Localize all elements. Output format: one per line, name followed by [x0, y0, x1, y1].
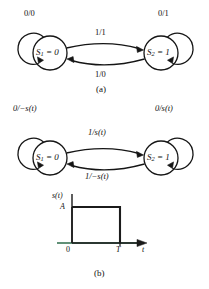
state-label-s2-value-middle: = 1: [155, 152, 170, 162]
caption-a: (a): [96, 84, 106, 94]
transition-arc-s2-to-s1: [72, 59, 145, 65]
self-loop-label-left-middle: 0/−s(t): [13, 104, 37, 113]
duration-label: T: [116, 246, 120, 254]
state-label-s2-top: S2 = 1: [147, 48, 170, 58]
state-label-s1-value-middle: = 0: [44, 152, 59, 162]
transition-label-top: 1/1: [95, 28, 106, 37]
origin-label: 0: [66, 246, 70, 254]
state-label-s1-value: = 0: [44, 47, 59, 57]
transition-label-bottom-middle: 1/−s(t): [85, 172, 109, 181]
transition-label-top-middle: 1/s(t): [88, 128, 106, 137]
state-label-s1-top: S1 = 0: [36, 48, 59, 58]
state-label-s2-value: = 1: [155, 47, 170, 57]
amplitude-label: A: [60, 203, 65, 211]
self-loop-label-right-middle: 0/s(t): [155, 104, 173, 113]
y-axis-label: s(t): [52, 192, 63, 200]
self-loop-label-left-top: 0/0: [24, 9, 35, 18]
x-axis-label: t: [142, 246, 144, 254]
figure-root: 0/0 0/1 1/1 1/0 S1 = 0 S2 = 1 (a) 0/−s(t…: [0, 0, 209, 289]
transition-arrowhead-to-s2-middle: [137, 151, 144, 157]
self-loop-label-right-top: 0/1: [158, 9, 169, 18]
state-label-s1-middle: S1 = 0: [36, 153, 59, 163]
transition-arc-s2-to-s1-middle: [72, 164, 145, 170]
state-label-s2-middle: S2 = 1: [147, 153, 170, 163]
waveform-plot: [0, 190, 209, 285]
pulse-waveform: [72, 207, 120, 243]
transition-label-bottom: 1/0: [95, 70, 106, 79]
transition-arrowhead-to-s1: [67, 57, 74, 63]
transition-arc-s1-to-s2: [67, 44, 140, 49]
transition-arrowhead-to-s1-middle: [67, 162, 74, 168]
transition-arrowhead-to-s2: [137, 46, 144, 52]
caption-b: (b): [94, 268, 105, 278]
transition-arc-s1-to-s2-middle: [67, 149, 140, 154]
